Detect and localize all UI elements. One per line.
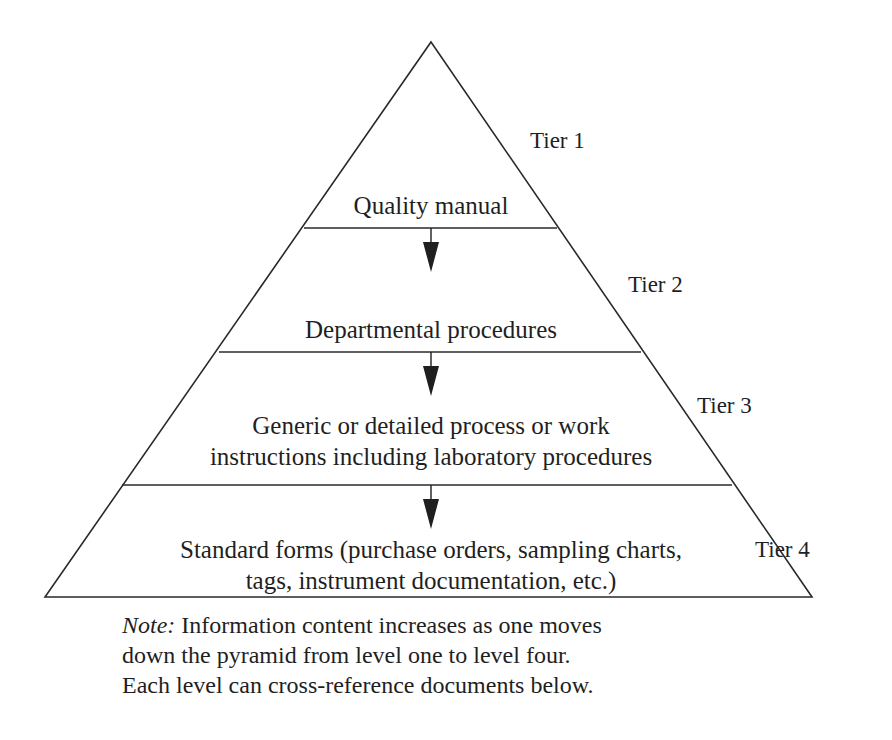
tier3-content: Generic or detailed process or work inst… bbox=[151, 410, 711, 472]
note-line1: Note: Information content increases as o… bbox=[122, 610, 602, 640]
note-prefix: Note: bbox=[122, 612, 175, 638]
tier4-content-line2: tags, instrument documentation, etc.) bbox=[91, 565, 771, 596]
note-line2: down the pyramid from level one to level… bbox=[122, 640, 602, 670]
arrow-down-icon bbox=[423, 485, 439, 529]
note-line3: Each level can cross-reference documents… bbox=[122, 670, 602, 700]
tier1-content: Quality manual bbox=[331, 190, 531, 221]
tier3-label: Tier 3 bbox=[697, 393, 752, 419]
tier3-content-line1: Generic or detailed process or work bbox=[151, 410, 711, 441]
note-caption: Note: Information content increases as o… bbox=[122, 610, 602, 700]
tier2-label: Tier 2 bbox=[628, 272, 683, 298]
note-line1-text: Information content increases as one mov… bbox=[181, 612, 602, 638]
tier2-content: Departmental procedures bbox=[231, 314, 631, 345]
arrow-down-icon bbox=[423, 228, 439, 272]
tier4-label: Tier 4 bbox=[755, 537, 810, 563]
tier4-content: Standard forms (purchase orders, samplin… bbox=[91, 534, 771, 596]
tier4-content-line1: Standard forms (purchase orders, samplin… bbox=[91, 534, 771, 565]
tier3-content-line2: instructions including laboratory proced… bbox=[151, 441, 711, 472]
tier1-label: Tier 1 bbox=[530, 128, 585, 154]
arrow-down-icon bbox=[423, 352, 439, 396]
